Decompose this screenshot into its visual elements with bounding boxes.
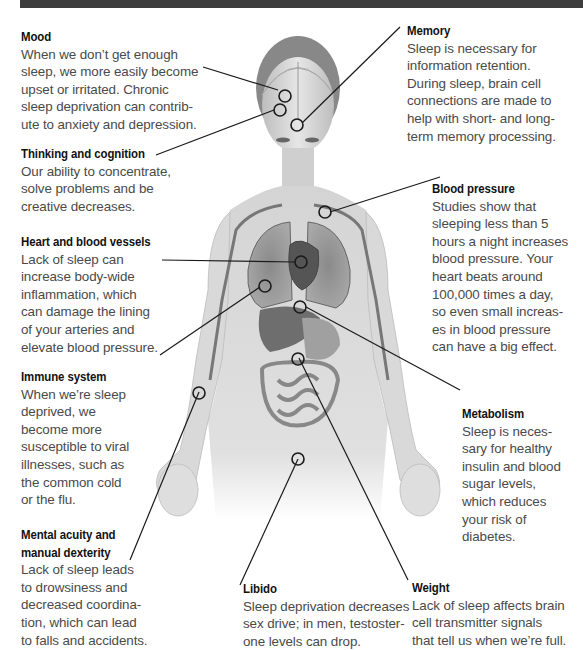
callout-blood-pressure: Blood pressure Studies show that sleepin… bbox=[432, 180, 583, 356]
callout-weight: Weight Lack of sleep affects brain cell … bbox=[412, 579, 583, 649]
callout-title: Metabolism bbox=[462, 405, 568, 423]
callout-title: Blood pressure bbox=[432, 180, 565, 198]
callout-libido: Libido Sleep deprivation decreases sex d… bbox=[243, 580, 423, 650]
left-hand bbox=[158, 464, 198, 516]
callout-body: When we’re sleep deprived, we become mor… bbox=[21, 386, 151, 509]
callout-body: Studies show that sleeping less than 5 h… bbox=[432, 198, 583, 356]
callout-title: manual dexterity bbox=[21, 544, 153, 562]
callout-thinking: Thinking and cognition Our ability to co… bbox=[21, 145, 201, 215]
callout-heart: Heart and blood vessels Lack of sleep ca… bbox=[21, 233, 191, 356]
callout-body: Lack of sleep can increase body-wide inf… bbox=[21, 251, 191, 357]
callout-body: Our ability to concentrate, solve proble… bbox=[21, 163, 201, 216]
callout-title: Weight bbox=[412, 579, 562, 597]
callout-body: Sleep is neces- sary for healthy insulin… bbox=[462, 423, 583, 546]
callout-body: Sleep is necessary for information reten… bbox=[407, 40, 583, 146]
callout-mental-acuity: Mental acuity and manual dexterity Lack … bbox=[21, 526, 171, 649]
callout-mood: Mood When we don’t get enough sleep, we … bbox=[21, 28, 211, 134]
callout-immune: Immune system When we’re sleep deprived,… bbox=[21, 368, 151, 509]
callout-body: Lack of sleep affects brain cell transmi… bbox=[412, 597, 583, 650]
callout-title: Thinking and cognition bbox=[21, 145, 179, 163]
callout-title: Immune system bbox=[21, 368, 135, 386]
callout-title: Heart and blood vessels bbox=[21, 233, 171, 251]
callout-metabolism: Metabolism Sleep is neces- sary for heal… bbox=[462, 405, 583, 546]
callout-title: Libido bbox=[243, 580, 401, 598]
callout-title: Memory bbox=[407, 22, 562, 40]
callout-title: Mental acuity and bbox=[21, 526, 153, 544]
neck bbox=[282, 148, 314, 188]
right-hand bbox=[400, 464, 440, 516]
callout-title: Mood bbox=[21, 28, 188, 46]
callout-memory: Memory Sleep is necessary for informatio… bbox=[407, 22, 583, 145]
callout-body: When we don’t get enough sleep, we more … bbox=[21, 46, 211, 134]
callout-body: Lack of sleep leads to drowsiness and de… bbox=[21, 561, 171, 649]
callout-body: Sleep deprivation decreases sex drive; i… bbox=[243, 598, 423, 650]
